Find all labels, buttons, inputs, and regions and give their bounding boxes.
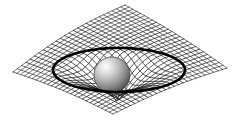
spacetime-curvature-figure: A rectangular grid sheet warped downward… — [0, 0, 239, 123]
figure-canvas — [0, 0, 239, 123]
massive-body-sphere — [94, 57, 130, 93]
